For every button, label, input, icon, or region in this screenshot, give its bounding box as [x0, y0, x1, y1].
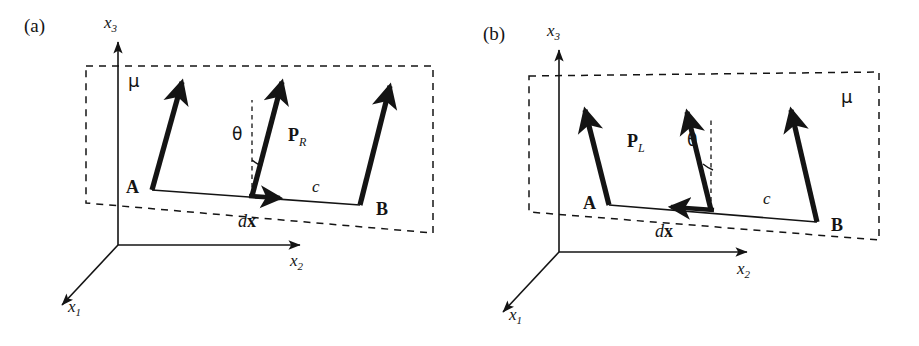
panel-b-drawing	[459, 0, 919, 346]
axis-x1-a	[62, 245, 118, 305]
surface-label-mu-a: μ	[128, 72, 139, 90]
polarization-vector-center-panel-a	[252, 82, 282, 196]
panel-tag-a: (a)	[24, 16, 45, 35]
point-label-a-panel-b: A	[583, 194, 596, 212]
panel-tag-b: (b)	[483, 24, 505, 43]
axis-label-x2-b: x2	[737, 260, 750, 280]
displacement-label-dx-a: dx	[238, 212, 256, 230]
point-label-a-panel-a: A	[126, 178, 139, 196]
polarization-vector-at-b-panel-a	[360, 86, 390, 205]
polarization-vector-center-panel-b	[687, 112, 711, 210]
separation-label-c-b: c	[763, 190, 771, 207]
axes-a	[62, 42, 300, 305]
dx-arrow-b	[671, 207, 714, 210]
axis-label-x1-a: x1	[68, 298, 81, 318]
point-label-b-panel-a: B	[376, 200, 388, 218]
polarization-vector-at-a-panel-a	[152, 82, 182, 190]
axis-label-x1-b: x1	[509, 306, 522, 326]
angle-label-theta-a: θ	[232, 126, 242, 143]
polarization-vector-at-b-panel-b	[791, 110, 817, 222]
surface-boundary-b	[529, 72, 879, 240]
panel-b: (b) x3 x2 x1 μ A B c dx θ PL	[459, 0, 919, 346]
polarization-label-b: PL	[627, 132, 645, 154]
figure-canvas: (a) x3 x2 x1 μ A B c dx θ PR	[0, 0, 919, 346]
panel-a-drawing	[0, 0, 460, 346]
panel-a: (a) x3 x2 x1 μ A B c dx θ PR	[0, 0, 460, 346]
axis-label-x2-a: x2	[290, 252, 303, 272]
dx-arrow-a	[249, 196, 280, 198]
surface-label-mu-b: μ	[841, 88, 852, 106]
polarization-label-a: PR	[288, 126, 306, 148]
displacement-label-dx-b: dx	[655, 222, 673, 240]
polarization-vector-at-a-panel-b	[585, 110, 609, 205]
axis-x1-b	[503, 252, 559, 312]
separation-label-c-a: c	[312, 178, 320, 195]
point-label-b-panel-b: B	[831, 216, 843, 234]
angle-label-theta-b: θ	[687, 132, 697, 149]
axis-label-x3-b: x3	[547, 22, 560, 42]
axis-label-x3-a: x3	[104, 14, 117, 34]
